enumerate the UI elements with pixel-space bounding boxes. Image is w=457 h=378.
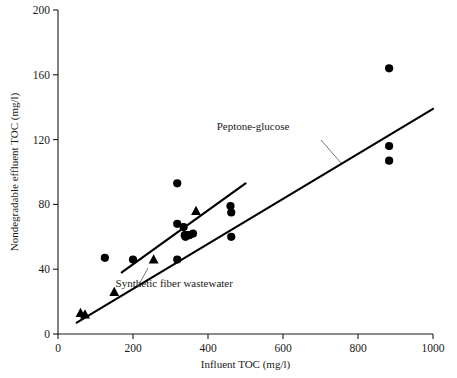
data-point-peptone-glucose-1: [129, 255, 137, 263]
leader-line-peptone-glucose: [321, 140, 341, 163]
data-point-peptone-glucose-4: [173, 255, 181, 263]
y-tick-label-80: 80: [39, 198, 51, 210]
annotation-peptone-glucose: Peptone-glucose: [217, 120, 290, 132]
scatter-plot: 0408012016020002004006008001000Peptone-g…: [0, 0, 457, 378]
x-tick-label-1000: 1000: [422, 342, 445, 354]
data-point-peptone-glucose-16: [385, 157, 393, 165]
y-tick-label-200: 200: [33, 4, 51, 16]
y-axis-title: Nondegradable effluent TOC (mg/l): [8, 92, 21, 251]
chart-figure: 0408012016020002004006008001000Peptone-g…: [0, 0, 457, 378]
data-point-peptone-glucose-15: [385, 142, 393, 150]
data-point-synthetic-fiber-wastewater-3: [149, 254, 159, 263]
x-tick-label-0: 0: [55, 342, 61, 354]
data-point-peptone-glucose-0: [101, 254, 109, 262]
x-axis-title: Influent TOC (mg/l): [201, 358, 291, 371]
data-point-synthetic-fiber-wastewater-4: [191, 206, 201, 215]
x-tick-label-200: 200: [124, 342, 142, 354]
x-tick-label-600: 600: [274, 342, 292, 354]
x-tick-label-800: 800: [349, 342, 367, 354]
data-point-peptone-glucose-2: [173, 179, 181, 187]
data-point-peptone-glucose-5: [180, 223, 188, 231]
data-point-peptone-glucose-14: [385, 64, 393, 72]
data-point-peptone-glucose-12: [227, 208, 235, 216]
annotation-synthetic-fiber: Synthetic fiber wastewater: [116, 277, 234, 289]
regression-line-peptone-glucose: [77, 109, 433, 323]
y-tick-label-120: 120: [33, 134, 51, 146]
y-tick-label-160: 160: [33, 69, 51, 81]
x-tick-label-400: 400: [199, 342, 217, 354]
axis-spines: [58, 10, 433, 334]
data-point-peptone-glucose-10: [189, 229, 197, 237]
y-tick-label-40: 40: [39, 263, 51, 275]
y-tick-label-0: 0: [44, 328, 50, 340]
data-point-peptone-glucose-13: [227, 233, 235, 241]
